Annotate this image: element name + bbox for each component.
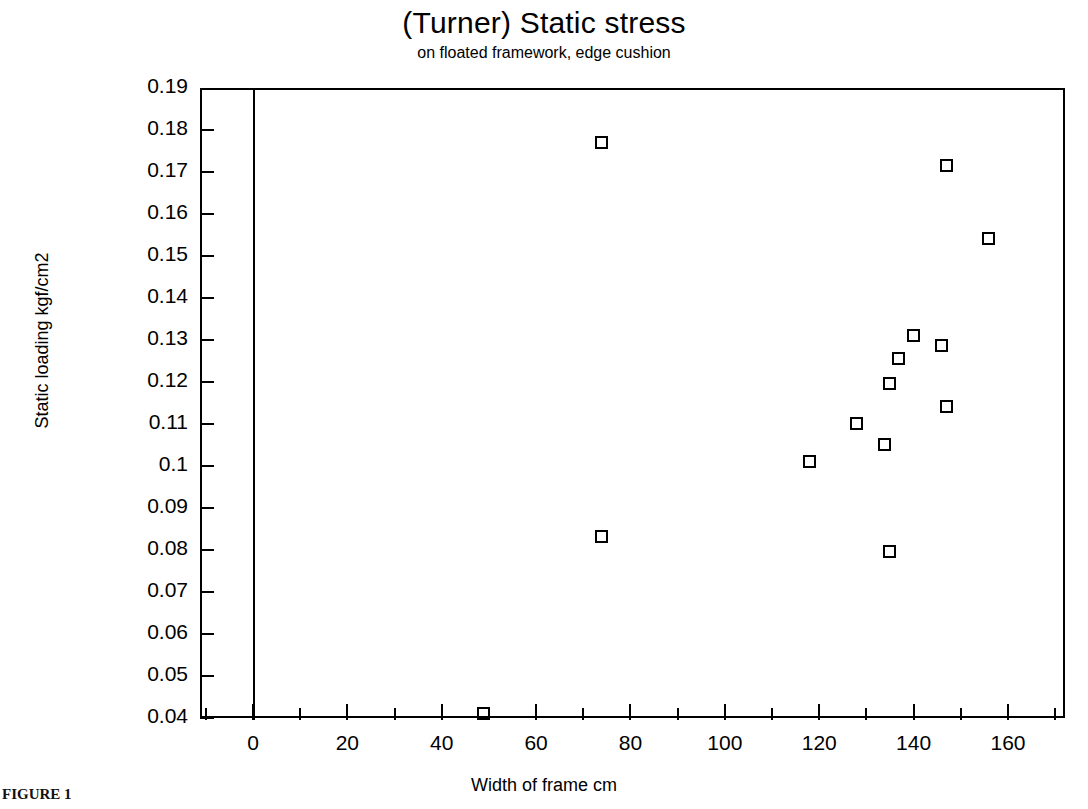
- x-axis-minor-tick: [394, 708, 396, 720]
- data-point-marker: [940, 400, 953, 413]
- data-point-marker: [595, 136, 608, 149]
- data-point-marker: [935, 339, 948, 352]
- data-point-marker: [892, 352, 905, 365]
- y-axis-tick: [200, 549, 214, 551]
- y-axis-tick: [200, 423, 214, 425]
- y-axis-tick: [200, 213, 214, 215]
- x-axis-tick-label: 120: [779, 731, 859, 755]
- y-axis-tick-label: 0.05: [60, 662, 188, 686]
- y-axis-tick-label: 0.19: [60, 74, 188, 98]
- y-axis-tick: [200, 381, 214, 383]
- x-axis-tick-label: 100: [685, 731, 765, 755]
- x-axis-tick-label: 80: [590, 731, 670, 755]
- y-axis-tick-label: 0.07: [60, 578, 188, 602]
- data-point-marker: [883, 545, 896, 558]
- data-point-marker: [850, 417, 863, 430]
- y-axis-tick-label: 0.04: [60, 704, 188, 728]
- x-axis-minor-tick: [1054, 708, 1056, 720]
- y-axis-tick-label: 0.13: [60, 326, 188, 350]
- y-axis-tick-label: 0.15: [60, 242, 188, 266]
- y-axis-tick-label: 0.16: [60, 200, 188, 224]
- x-axis-minor-tick: [205, 708, 207, 720]
- y-axis-title: Static loading kgf/cm2: [32, 181, 53, 501]
- y-axis-tick-label: 0.12: [60, 368, 188, 392]
- y-axis-tick: [200, 465, 214, 467]
- data-point-marker: [595, 530, 608, 543]
- y-axis-tick: [200, 339, 214, 341]
- x-axis-tick: [629, 704, 631, 720]
- x-axis-tick: [346, 704, 348, 720]
- y-axis-tick: [200, 297, 214, 299]
- figure-caption: FIGURE 1: [2, 786, 72, 803]
- x-axis-tick-label: 60: [496, 731, 576, 755]
- x-axis-tick: [441, 704, 443, 720]
- data-point-marker: [803, 455, 816, 468]
- figure-scatter-static-stress: (Turner) Static stress on floated framew…: [0, 0, 1088, 809]
- x-axis-tick: [252, 704, 254, 720]
- y-axis-tick: [200, 675, 214, 677]
- x-axis-tick-label: 160: [968, 731, 1048, 755]
- x-axis-tick: [818, 704, 820, 720]
- x-axis-tick-label: 140: [874, 731, 954, 755]
- data-point-marker: [883, 377, 896, 390]
- x-axis-title: Width of frame cm: [0, 775, 1088, 796]
- x-axis-tick: [913, 704, 915, 720]
- data-point-marker: [940, 159, 953, 172]
- x-axis-minor-tick: [299, 708, 301, 720]
- y-axis-tick: [200, 717, 214, 719]
- x-axis-tick-label: 0: [213, 731, 293, 755]
- y-axis-tick-label: 0.11: [60, 410, 188, 434]
- x-axis-minor-tick: [865, 708, 867, 720]
- y-axis-tick-label: 0.17: [60, 158, 188, 182]
- x-axis-tick: [535, 704, 537, 720]
- x-axis-tick-label: 40: [402, 731, 482, 755]
- x-axis-minor-tick: [771, 708, 773, 720]
- y-axis-tick-label: 0.18: [60, 116, 188, 140]
- chart-title: (Turner) Static stress: [0, 6, 1088, 40]
- plot-area: [200, 88, 1065, 718]
- y-axis-tick: [200, 129, 214, 131]
- y-axis-tick: [200, 255, 214, 257]
- y-axis-tick: [200, 507, 214, 509]
- y-axis-tick-label: 0.08: [60, 536, 188, 560]
- y-axis-tick: [200, 171, 214, 173]
- x-axis-tick: [1007, 704, 1009, 720]
- y-axis-tick-label: 0.09: [60, 494, 188, 518]
- data-point-marker: [907, 329, 920, 342]
- y-axis-tick-label: 0.06: [60, 620, 188, 644]
- y-axis-tick: [200, 591, 214, 593]
- y-axis-tick-label: 0.14: [60, 284, 188, 308]
- data-point-marker: [982, 232, 995, 245]
- x-axis-minor-tick: [582, 708, 584, 720]
- y-axis-tick: [200, 633, 214, 635]
- x-axis-tick: [724, 704, 726, 720]
- chart-subtitle: on floated framework, edge cushion: [0, 44, 1088, 62]
- data-point-marker: [477, 707, 490, 720]
- y-axis-tick-label: 0.1: [60, 452, 188, 476]
- x-axis-minor-tick: [677, 708, 679, 720]
- x-zero-axis-line: [253, 88, 255, 720]
- x-axis-minor-tick: [960, 708, 962, 720]
- x-axis-tick-label: 20: [307, 731, 387, 755]
- data-point-marker: [878, 438, 891, 451]
